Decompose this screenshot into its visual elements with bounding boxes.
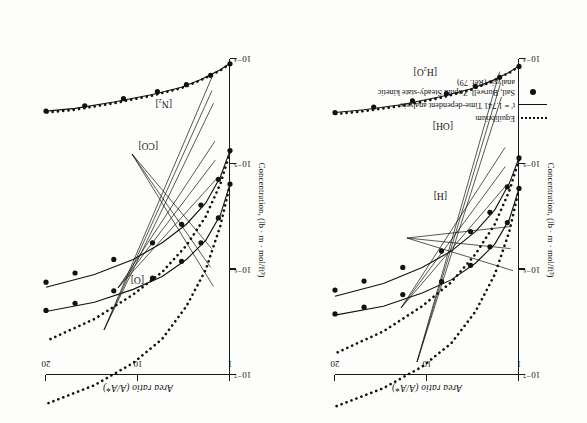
species-label-co: [CO] — [138, 141, 158, 151]
conc-tick-label-1e-6-right: 10⁻⁶ — [234, 265, 251, 275]
plot-panel-right: Area ratio (A/A*) 1 10 20 10⁻⁷ 10⁻⁶ 10⁻⁵… — [38, 45, 276, 397]
legend-key-marker-icon — [515, 87, 549, 97]
area-tick-10-left — [426, 375, 427, 381]
legend: Equilibrium t' = 1.741 Time-dependent an… — [363, 75, 549, 123]
concentration-axis-title-right: Concentration, (lb · m · mol/ft³) — [257, 120, 267, 320]
conc-tick-label-1e-7-left: 10⁻⁷ — [523, 370, 540, 380]
conc-tick-label-1e-4-right: 10⁻⁴ — [234, 54, 251, 64]
area-ratio-axis-title-left: Area ratio (A/A*) — [335, 383, 519, 393]
area-tick-1-right — [229, 375, 230, 381]
area-tick-20-right — [45, 375, 46, 381]
species-label-o: [O] — [131, 275, 144, 285]
area-ratio-axis-title-right: Area ratio (A/A*) — [46, 383, 230, 393]
conc-tick-label-1e-4-left: 10⁻⁴ — [523, 54, 540, 64]
figure-rotation-wrapper: Area ratio (A/A*) 1 10 20 10⁻⁷ 10⁻⁶ 10⁻⁵… — [0, 0, 587, 423]
legend-item-equilibrium: Equilibrium — [363, 113, 549, 123]
conc-tick-label-1e-5-right: 10⁻⁵ — [234, 159, 251, 169]
legend-key-solid-icon — [515, 100, 549, 110]
conc-tick-label-1e-6-left: 10⁻⁶ — [523, 265, 540, 275]
species-label-n2: [N₂] — [156, 99, 173, 109]
legend-label-time-dependent: t' = 1.741 Time-dependent analysis — [363, 100, 515, 110]
legend-item-steady-state: Satl, Burwell, Zupnik Steady-state kinet… — [363, 78, 549, 97]
conc-tick-label-1e-7-right: 10⁻⁷ — [234, 370, 251, 380]
leaders-right — [46, 59, 230, 375]
area-tick-1-left — [518, 375, 519, 381]
legend-item-time-dependent: t' = 1.741 Time-dependent analysis — [363, 100, 549, 110]
area-tick-10-right — [137, 375, 138, 381]
species-label-h: [H] — [434, 191, 447, 201]
figure-canvas: Area ratio (A/A*) 1 10 20 10⁻⁷ 10⁻⁶ 10⁻⁵… — [0, 0, 587, 423]
area-tick-20-left — [334, 375, 335, 381]
legend-key-dotted-icon — [515, 113, 549, 123]
legend-label-steady-state: Satl, Burwell, Zupnik Steady-state kinet… — [363, 78, 515, 97]
conc-tick-label-1e-5-left: 10⁻⁵ — [523, 159, 540, 169]
legend-label-equilibrium: Equilibrium — [363, 113, 515, 123]
plot-area-right: 1 10 20 10⁻⁷ 10⁻⁶ 10⁻⁵ 10⁻⁴ — [46, 59, 230, 375]
concentration-axis-title-left: Concentration, (lb · m · mol/ft³) — [546, 120, 556, 320]
